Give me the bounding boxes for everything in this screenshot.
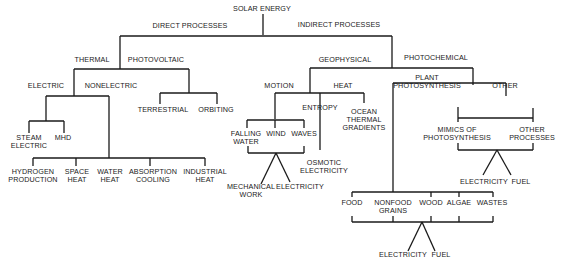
mimics-of-photosynthesis-label: MIMICS OF PHOTOSYNTHESIS: [423, 126, 491, 142]
solar-energy-tree-diagram: SOLAR ENERGY DIRECT PROCESSES INDIRECT P…: [0, 0, 568, 264]
falling-water-label: FALLING WATER: [231, 130, 261, 146]
entropy-label: ENTROPY: [302, 104, 337, 112]
other-processes-label: OTHER PROCESSES: [509, 126, 555, 142]
terrestrial-label: TERRESTRIAL: [138, 106, 189, 114]
mechanical-work-label: MECHANICAL WORK: [227, 183, 275, 199]
food-label: FOOD: [341, 199, 362, 207]
electricity-plant-label: ELECTRICITY: [379, 251, 427, 259]
electricity-other-label: ELECTRICITY: [460, 178, 508, 186]
motion-label: MOTION: [264, 82, 293, 90]
ocean-thermal-gradients-label: OCEAN THERMAL GRADIENTS: [343, 108, 386, 132]
wastes-label: WASTES: [477, 199, 508, 207]
wood-label: WOOD: [419, 199, 443, 207]
root-label: SOLAR ENERGY: [233, 5, 291, 13]
wind-label: WIND: [266, 130, 286, 138]
geophysical-label: GEOPHYSICAL: [319, 56, 372, 64]
orbiting-label: ORBITING: [198, 106, 234, 114]
industrial-heat-label: INDUSTRIAL HEAT: [183, 168, 227, 184]
photovoltaic-label: PHOTOVOLTAIC: [128, 56, 184, 64]
water-heat-label: WATER HEAT: [97, 168, 123, 184]
steam-electric-label: STEAM ELECTRIC: [11, 134, 47, 150]
fuel-plant-label: FUEL: [432, 251, 451, 259]
nonfood-grains-label: NONFOOD GRAINS: [374, 199, 411, 215]
heat-label: HEAT: [333, 82, 352, 90]
thermal-label: THERMAL: [74, 56, 109, 64]
absorption-cooling-label: ABSORPTION COOLING: [129, 168, 177, 184]
mhd-label: MHD: [55, 134, 72, 142]
waves-label: WAVES: [291, 130, 317, 138]
osmotic-electricity-label: OSMOTIC ELECTRICITY: [300, 159, 348, 175]
direct-processes-label: DIRECT PROCESSES: [153, 22, 228, 30]
electric-label: ELECTRIC: [28, 82, 64, 90]
nonelectric-label: NONELECTRIC: [85, 82, 138, 90]
plant-photosynthesis-label: PLANT PHOTOSYNTHESIS: [393, 74, 461, 90]
algae-label: ALGAE: [447, 199, 471, 207]
electricity-motion-label: ELECTRICITY: [276, 183, 324, 191]
fuel-other-label: FUEL: [512, 178, 531, 186]
photochemical-label: PHOTOCHEMICAL: [404, 54, 468, 62]
indirect-processes-label: INDIRECT PROCESSES: [298, 21, 380, 29]
space-heat-label: SPACE HEAT: [65, 168, 89, 184]
hydrogen-production-label: HYDROGEN PRODUCTION: [8, 168, 57, 184]
other-label: OTHER: [492, 82, 518, 90]
